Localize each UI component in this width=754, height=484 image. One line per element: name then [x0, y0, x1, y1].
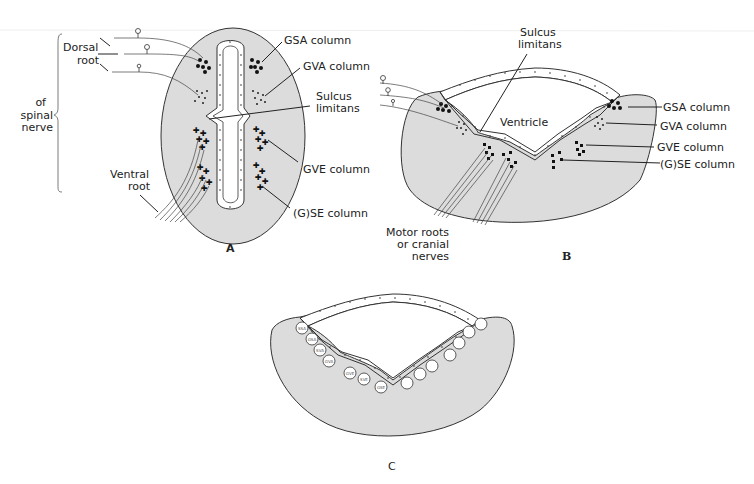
- neural-columns-figure: ✚✚✚✚✚ ✚✚✚✚✚ ✚✚✚✚✚ ✚✚✚✚✚ Dorsal root o: [0, 0, 754, 484]
- gsa-column-label-b: GSA column: [663, 101, 730, 114]
- motor-roots-label-3: nerves: [412, 250, 450, 263]
- spinal-nerve-brace: [54, 34, 62, 192]
- panel-label-a: A: [226, 242, 235, 255]
- circle-label-sva: SVA: [316, 348, 324, 353]
- svg-text:✚: ✚: [193, 126, 200, 135]
- gva-column-label-b: GVA column: [660, 120, 727, 133]
- svg-text:✚: ✚: [257, 144, 264, 153]
- circle-label-sve: SVE: [360, 377, 368, 382]
- circle-label-ssa: SSA: [298, 326, 306, 331]
- panel-label-c: C: [388, 460, 396, 473]
- gve-column-label-b: GVE column: [657, 141, 724, 154]
- svg-text:✚: ✚: [255, 135, 262, 144]
- gsa-column-label-a: GSA column: [284, 34, 351, 47]
- circle-label-gse: GSE: [377, 385, 386, 390]
- dorsal-root-label-2: root: [77, 54, 100, 67]
- dorsal-root-label: Dorsal: [63, 41, 98, 54]
- panel-label-b: B: [562, 250, 571, 263]
- sulcus-limitans-label-b-2: limitans: [518, 38, 562, 51]
- sulcus-limitans-label-a-2: limitans: [316, 102, 360, 115]
- svg-text:✚: ✚: [257, 183, 264, 192]
- gva-column-label-a: GVA column: [303, 60, 370, 73]
- gve-column-label-a: GVE column: [303, 163, 370, 176]
- gse-column-label-b: (G)SE column: [660, 158, 735, 171]
- panel-b: Sulcus limitans Ventricle GSA column GVA…: [380, 26, 735, 263]
- panel-c: SSA GSA SVA GVA GVE SVE GSE C: [271, 294, 515, 473]
- circle-label-gva: GVA: [325, 359, 334, 364]
- circle-label-gve: GVE: [346, 371, 355, 376]
- of-spinal-nerve-label: of: [35, 96, 47, 109]
- circle-label-gsa: GSA: [308, 337, 317, 342]
- of-spinal-nerve-label-3: nerve: [21, 121, 53, 134]
- ventral-root-label-2: root: [128, 180, 151, 193]
- svg-text:✚: ✚: [255, 173, 262, 182]
- ventricle-label: Ventricle: [500, 116, 548, 129]
- gse-column-label-a: (G)SE column: [293, 207, 368, 220]
- dorsal-root-ganglion-cells: [136, 29, 150, 73]
- panel-a: ✚✚✚✚✚ ✚✚✚✚✚ ✚✚✚✚✚ ✚✚✚✚✚ Dorsal root o: [20, 28, 370, 255]
